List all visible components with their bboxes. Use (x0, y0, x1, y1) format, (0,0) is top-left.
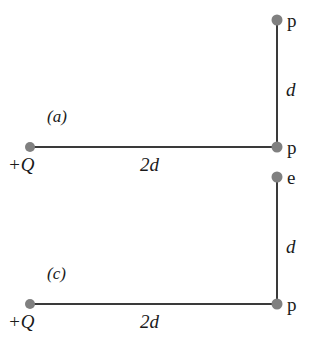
top-point-label-c: e (287, 168, 295, 187)
vertical-distance-label-a: d (286, 80, 296, 99)
charge-dot-c (25, 299, 35, 309)
top-point-label-a: p (287, 11, 297, 30)
panel-label-c: (c) (47, 265, 66, 282)
diagram-c-lines (0, 157, 322, 337)
corner-point-label-a: p (287, 138, 297, 157)
source-charge-label-c: +Q (8, 312, 35, 331)
charge-dot-a (25, 142, 35, 152)
panel-label-a: (a) (47, 108, 67, 125)
physics-figure: p d (a) p +Q 2d e d (c) p +Q 2d (0, 0, 322, 337)
horizontal-distance-label-c: 2d (140, 312, 159, 331)
corner-point-dot-a (272, 142, 283, 153)
top-point-dot-c (272, 172, 283, 183)
top-point-dot-a (272, 15, 283, 26)
diagram-a-lines (0, 0, 322, 180)
corner-point-dot-c (272, 299, 283, 310)
diagram-panel-a: p d (a) p +Q 2d (0, 0, 322, 180)
corner-point-label-c: p (287, 295, 297, 314)
diagram-panel-c: e d (c) p +Q 2d (0, 157, 322, 337)
vertical-distance-label-c: d (286, 237, 296, 256)
